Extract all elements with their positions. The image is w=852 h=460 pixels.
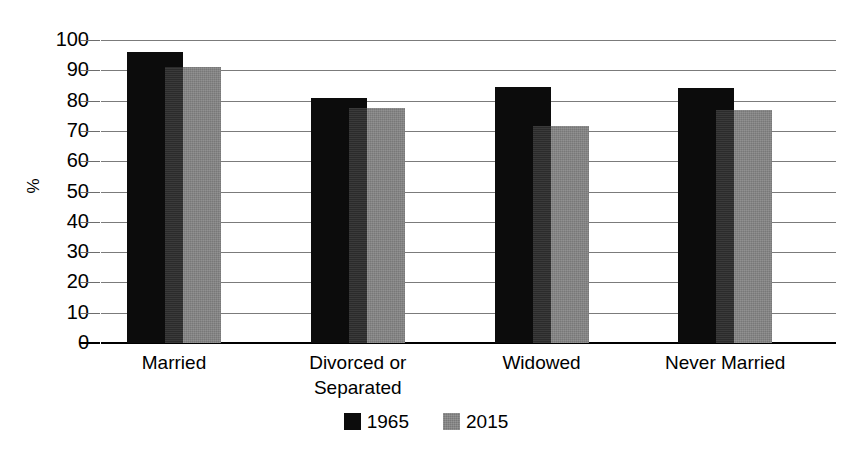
plot-area (101, 40, 836, 343)
legend-item: 2015 (443, 412, 508, 431)
chart-legend: 19652015 (0, 412, 852, 431)
y-axis-tick (80, 101, 100, 102)
y-axis-tick-label: 20 (45, 271, 89, 291)
legend-label: 1965 (367, 412, 409, 431)
gray-square-swatch (443, 413, 460, 430)
y-axis-tick-label: 90 (45, 59, 89, 79)
black-square-swatch (344, 413, 361, 430)
y-axis-tick (80, 192, 100, 193)
y-axis-tick-label: 70 (45, 120, 89, 140)
x-axis-tick-label: Never Married (615, 350, 835, 375)
y-axis-tick (80, 222, 100, 223)
y-axis-tick-label: 30 (45, 241, 89, 261)
y-axis-tick-label: 40 (45, 211, 89, 231)
y-axis-tick-label: 10 (45, 302, 89, 322)
y-axis-tick (80, 40, 100, 41)
bar-overlap-shadow (349, 108, 367, 343)
bar-overlap-shadow (533, 126, 551, 343)
bar-overlap-shadow (716, 110, 734, 343)
y-axis-tick (80, 161, 100, 162)
bar-chart: % 1009080706050403020100 MarriedDivorced… (0, 0, 852, 460)
y-axis-tick (80, 252, 100, 253)
y-axis-tick-label: 100 (45, 29, 89, 49)
bar-overlap-shadow (165, 67, 183, 343)
y-axis-tick-label: 80 (45, 90, 89, 110)
legend-item: 1965 (344, 412, 409, 431)
y-axis-tick (80, 282, 100, 283)
y-axis-tick-label: 50 (45, 181, 89, 201)
y-axis-tick (80, 342, 100, 344)
y-axis-tick (80, 313, 100, 314)
y-axis-title: % (24, 166, 44, 206)
gridline (101, 40, 836, 41)
y-axis-tick-label: 60 (45, 150, 89, 170)
y-axis-tick (80, 131, 100, 132)
legend-label: 2015 (466, 412, 508, 431)
y-axis-tick (80, 70, 100, 71)
